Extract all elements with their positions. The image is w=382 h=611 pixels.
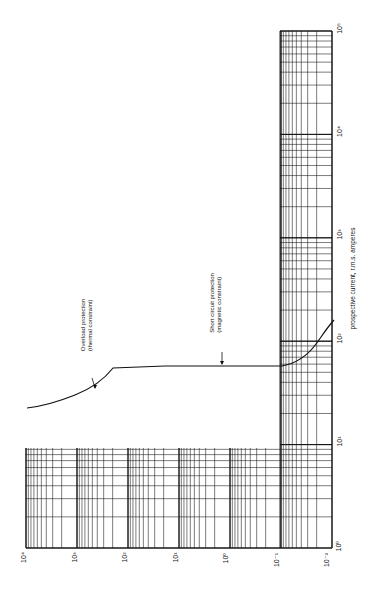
- x-tick-label: 10²: [336, 333, 343, 343]
- plot-area: [0, 0, 382, 611]
- annotation-overload: Overload protection (thermal constraint): [80, 299, 94, 351]
- x-tick-label: 10⁰: [335, 541, 343, 552]
- tripping-curve: [27, 320, 334, 408]
- y-tick-label: 10⁰: [222, 553, 230, 564]
- time-current-chart: 10⁴ 10³ 10² 10¹ 10⁰ 10⁻¹ 10⁻² 10⁵ 10⁴ 10…: [0, 0, 382, 611]
- annotation-overload-subtitle: (thermal constraint): [87, 299, 94, 351]
- y-tick-label: 10⁴: [20, 552, 27, 563]
- x-tick-label: 10³: [336, 229, 343, 239]
- x-tick-label: 10⁵: [336, 23, 343, 34]
- overload-arrowhead: [93, 385, 97, 389]
- y-tick-label: 10²: [121, 552, 128, 562]
- log-grid: [26, 31, 332, 548]
- annotation-short-circuit: Short circuit protection (magnetic const…: [209, 273, 223, 333]
- x-tick-label: 10¹: [336, 436, 343, 446]
- short-circuit-arrowhead: [220, 361, 224, 365]
- y-tick-label: 10⁻¹: [273, 553, 281, 567]
- annotation-short-circuit-title: Short circuit protection: [209, 273, 216, 333]
- annotation-short-circuit-subtitle: (magnetic constraint): [216, 273, 223, 333]
- annotation-overload-title: Overload protection: [80, 299, 87, 351]
- y-tick-label: 10³: [71, 552, 78, 562]
- y-tick-label: 10¹: [172, 552, 179, 562]
- y-tick-label: 10⁻²: [323, 553, 331, 567]
- x-axis-title: prospective current, r.m.s. amperes: [349, 228, 356, 330]
- x-tick-label: 10⁴: [336, 126, 343, 137]
